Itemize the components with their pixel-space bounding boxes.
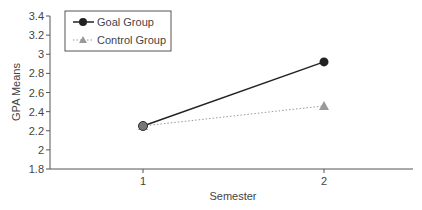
svg-text:Control Group: Control Group: [97, 34, 166, 46]
line-chart: 1.822.22.42.62.833.23.4 12 GPA Means Sem…: [0, 0, 422, 210]
svg-text:Goal Group: Goal Group: [97, 16, 154, 28]
y-tick-label: 2.4: [29, 106, 44, 118]
y-tick-label: 2.6: [29, 87, 44, 99]
y-axis: 1.822.22.42.62.833.23.4: [29, 10, 50, 175]
y-tick-label: 3.4: [29, 10, 44, 22]
y-axis-label: GPA Means: [10, 63, 22, 121]
overlap-data-point: [139, 121, 148, 130]
x-axis-label: Semester: [209, 190, 256, 202]
y-tick-label: 2.2: [29, 125, 44, 137]
y-tick-label: 3: [38, 48, 44, 60]
circle-marker-icon: [79, 18, 87, 26]
y-tick-label: 2: [38, 144, 44, 156]
x-tick-label: 1: [140, 175, 146, 187]
y-tick-label: 1.8: [29, 163, 44, 175]
series-group: [138, 57, 329, 130]
data-point: [320, 57, 329, 66]
x-tick-label: 2: [321, 175, 327, 187]
legend: Goal Group Control Group: [65, 11, 171, 51]
y-tick-label: 3.2: [29, 29, 44, 41]
y-tick-label: 2.8: [29, 67, 44, 79]
x-axis: 12: [50, 169, 413, 187]
data-point: [319, 101, 329, 110]
